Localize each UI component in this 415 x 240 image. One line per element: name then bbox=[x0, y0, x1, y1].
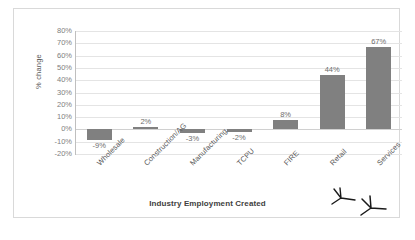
gridline-60 bbox=[76, 56, 402, 57]
y-tick-label: -10% bbox=[38, 138, 72, 146]
y-tick-label: 10% bbox=[38, 113, 72, 121]
y-tick-label: -20% bbox=[38, 150, 72, 158]
gridline-40 bbox=[76, 80, 402, 81]
gridline-70 bbox=[76, 43, 402, 44]
y-tick-label: 80% bbox=[38, 27, 72, 35]
chart-frame: % change 80%70%60%50%40%30%20%10%0%-10%-… bbox=[13, 8, 400, 218]
x-axis-title: Industry Employment Created bbox=[14, 199, 401, 208]
gridline-20 bbox=[76, 105, 402, 106]
y-tick-label: 40% bbox=[38, 76, 72, 84]
bar-value-label: 2% bbox=[123, 117, 169, 126]
y-tick-label: 60% bbox=[38, 52, 72, 60]
bar[interactable] bbox=[366, 47, 391, 129]
gridline--20 bbox=[76, 154, 402, 155]
bar-value-label: 8% bbox=[263, 110, 309, 119]
bar-value-label: 44% bbox=[309, 65, 355, 74]
y-tick-label: 0% bbox=[38, 125, 72, 133]
bar[interactable] bbox=[133, 127, 158, 129]
bar-value-label: 67% bbox=[356, 37, 402, 46]
y-tick-label: 30% bbox=[38, 89, 72, 97]
gridline-30 bbox=[76, 93, 402, 94]
bar[interactable] bbox=[227, 129, 252, 131]
gridline-80 bbox=[76, 31, 402, 32]
plot-area: -9%2%-3%-2%8%44%67% bbox=[76, 31, 402, 154]
y-tick-label: 70% bbox=[38, 39, 72, 47]
y-tick-label: 50% bbox=[38, 64, 72, 72]
y-axis-tick-labels: 80%70%60%50%40%30%20%10%0%-10%-20% bbox=[34, 31, 72, 154]
bar[interactable] bbox=[87, 129, 112, 140]
y-tick-label: 20% bbox=[38, 101, 72, 109]
bar[interactable] bbox=[273, 120, 298, 130]
bar[interactable] bbox=[320, 75, 345, 129]
